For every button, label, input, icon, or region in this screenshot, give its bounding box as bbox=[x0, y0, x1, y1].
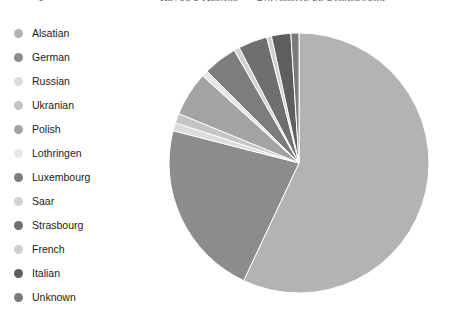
legend-item[interactable]: French bbox=[10, 237, 130, 261]
legend-swatch-icon bbox=[14, 101, 23, 110]
legend-swatch-icon bbox=[14, 221, 23, 230]
legend-item-label: Lothringen bbox=[32, 148, 82, 159]
pie-chart-svg bbox=[168, 32, 430, 294]
legend-item-label: Luxembourg bbox=[32, 172, 90, 183]
legend-item[interactable]: Saar bbox=[10, 189, 130, 213]
legend-item[interactable]: German bbox=[10, 45, 130, 69]
legend-item-label: German bbox=[32, 52, 70, 63]
legend-item[interactable]: Italian bbox=[10, 261, 130, 285]
legend-item[interactable]: Strasbourg bbox=[10, 213, 130, 237]
legend-item-label: Alsatian bbox=[32, 28, 69, 39]
legend-swatch-icon bbox=[14, 53, 23, 62]
legend-item-label: Strasbourg bbox=[32, 220, 83, 231]
legend-item-label: Saar bbox=[32, 196, 54, 207]
legend-item[interactable]: Ukranian bbox=[10, 93, 130, 117]
legend-item-label: Italian bbox=[32, 268, 60, 279]
legend-item[interactable]: Lothringen bbox=[10, 141, 130, 165]
legend-item[interactable]: Russian bbox=[10, 69, 130, 93]
header-title: Revue d'Alsace — Université de Strasbour… bbox=[160, 0, 385, 3]
pie-slice-group bbox=[169, 33, 429, 293]
legend-item-label: Russian bbox=[32, 76, 70, 87]
page-header: 1 Revue d'Alsace — Université de Strasbo… bbox=[0, 0, 450, 8]
legend-swatch-icon bbox=[14, 197, 23, 206]
legend-swatch-icon bbox=[14, 125, 23, 134]
chart-legend: AlsatianGermanRussianUkranianPolishLothr… bbox=[10, 21, 130, 309]
legend-swatch-icon bbox=[14, 269, 23, 278]
legend-swatch-icon bbox=[14, 29, 23, 38]
legend-item-label: Polish bbox=[32, 124, 61, 135]
pie-chart bbox=[168, 32, 430, 294]
legend-item[interactable]: Polish bbox=[10, 117, 130, 141]
legend-swatch-icon bbox=[14, 293, 23, 302]
legend-item-label: Ukranian bbox=[32, 100, 74, 111]
header-page-number: 1 bbox=[38, 0, 44, 3]
legend-swatch-icon bbox=[14, 173, 23, 182]
legend-swatch-icon bbox=[14, 245, 23, 254]
legend-swatch-icon bbox=[14, 149, 23, 158]
legend-item-label: French bbox=[32, 244, 65, 255]
legend-item[interactable]: Unknown bbox=[10, 285, 130, 309]
legend-swatch-icon bbox=[14, 77, 23, 86]
legend-item-label: Unknown bbox=[32, 292, 76, 303]
legend-item[interactable]: Alsatian bbox=[10, 21, 130, 45]
legend-item[interactable]: Luxembourg bbox=[10, 165, 130, 189]
